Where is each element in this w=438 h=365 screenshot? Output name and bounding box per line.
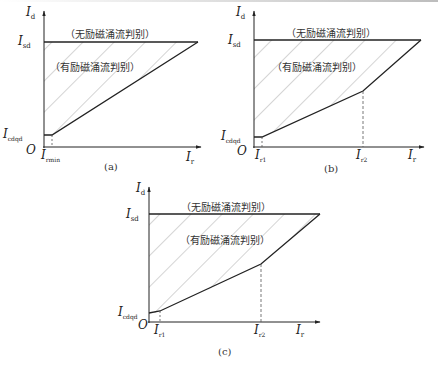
y-axis-label-b: Id [235,5,246,21]
caption-b: (b) [324,163,338,174]
region-inrush-label-a: （有励磁涌流判别） [50,61,140,73]
x-axis-label-b: Ir [407,148,417,164]
isd-label-b: Isd [227,33,241,49]
differential-protection-characteristics: Id Isd Icdqd O Irmin Ir （无励磁涌流判别） （有励磁涌流… [0,0,438,365]
x-axis-label-c: Ir [295,323,305,339]
x-axis-label-a: Ir [185,150,195,166]
r1-label-c: Ir1 [153,323,165,338]
y-axis-label-a: Id [25,5,36,21]
rmin-label-a: Irmin [40,148,60,163]
r2-label-b: Ir2 [355,148,368,163]
icdqd-label-a: Icdqd [2,127,23,143]
r2-label-c: Ir2 [253,323,266,338]
origin-label-c: O [138,318,148,332]
region-no-inrush-label-c: （无励磁涌流判别） [181,201,271,213]
caption-a: (a) [104,161,118,172]
icdqd-label-c: Icdqd [117,305,138,321]
region-no-inrush-label-a: （无励磁涌流判别） [65,28,155,40]
region-inrush-label-c: （有励磁涌流判别） [180,234,270,246]
y-axis-label-c: Id [135,181,146,197]
caption-c: (c) [218,346,232,357]
icdqd-label-b: Icdqd [220,129,241,145]
region-no-inrush-label-b: （无励磁涌流判别） [286,27,376,39]
origin-label-b: O [237,144,247,158]
r1-label-b: Ir1 [254,148,266,163]
isd-label-c: Isd [125,207,139,223]
region-inrush-label-b: （有励磁涌流判别） [272,61,362,73]
isd-label-a: Isd [17,34,31,50]
origin-label-a: O [26,143,36,157]
